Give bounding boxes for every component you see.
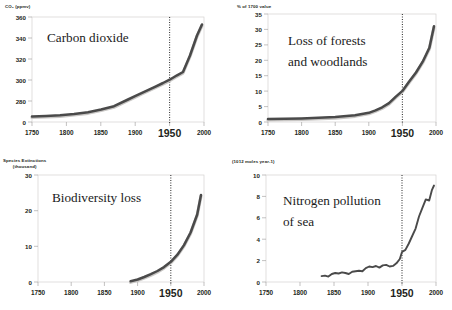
panel-biodiversity-loss: Species Extinctions (thousand) 30 20 10 …	[0, 155, 226, 310]
y-tick-label: 8	[257, 193, 261, 200]
panel-title: Biodiversity loss	[52, 190, 141, 205]
y-tick-label: 0	[257, 279, 261, 286]
x-tick-label: 1750	[261, 129, 276, 136]
y-tick-label: 35	[255, 11, 262, 18]
x-tick-label: 2000	[197, 289, 212, 296]
panel-nitrogen-pollution: (1012 moles year-1) 10 8 6 4 2 0	[226, 155, 452, 310]
y-tick-label: 30	[255, 26, 262, 33]
y-tick-label: 360	[16, 14, 27, 21]
x-tick-marks	[266, 282, 436, 286]
x-tick-label-1950: 1950	[158, 127, 182, 139]
plot-area-nitrogen-pollution: 10 8 6 4 2 0 1750 1800 1850 1900 19	[226, 155, 452, 310]
x-tick-label: 1800	[293, 289, 308, 296]
plot-area-biodiversity-loss: 30 20 10 0 1750 1800 1850 1900 1950 2000	[0, 155, 226, 310]
x-tick-label: 1800	[59, 129, 74, 136]
x-tick-label: 1900	[128, 129, 143, 136]
y-tick-marks	[262, 175, 266, 282]
y-tick-label: 10	[25, 243, 32, 250]
y-tick-label: 280	[16, 98, 27, 105]
panel-title-line-1: Loss of forests	[288, 33, 366, 48]
y-tick-marks	[264, 14, 268, 122]
y-tick-label: 25	[255, 41, 262, 48]
x-tick-marks	[32, 122, 204, 126]
y-tick-label: 340	[16, 35, 27, 42]
x-tick-label: 1800	[294, 129, 309, 136]
x-tick-label: 1750	[25, 129, 40, 136]
y-tick-label: 10	[253, 172, 260, 179]
x-tick-label: 1800	[64, 289, 79, 296]
y-tick-label: 0	[29, 279, 33, 286]
y-tick-label: 15	[255, 72, 262, 79]
x-tick-label: 1850	[94, 129, 109, 136]
y-tick-label: 300	[16, 77, 27, 84]
y-tick-label: 2	[257, 257, 261, 264]
x-tick-label: 1900	[361, 289, 376, 296]
y-tick-label: 20	[255, 57, 262, 64]
panel-title-line-2: and woodlands	[288, 54, 367, 69]
x-tick-label: 1750	[259, 289, 274, 296]
x-tick-label: 2000	[197, 129, 212, 136]
y-tick-label: 0	[23, 119, 27, 126]
y-tick-marks	[34, 175, 38, 282]
four-panel-figure: CO₂ (ppmv) 360 340 320 300 280 0	[0, 0, 452, 310]
panel-title-line-1: Nitrogen pollution	[283, 193, 381, 208]
panel-loss-of-forests: % of 1700 value 35 30 25 20 15	[226, 0, 452, 155]
x-tick-label: 1900	[362, 129, 377, 136]
x-tick-label-1950: 1950	[391, 127, 415, 139]
plot-area-carbon-dioxide: 360 340 320 300 280 0 1750 1800 1850 190…	[0, 0, 226, 155]
x-tick-marks	[268, 122, 436, 126]
x-tick-label: 1850	[97, 289, 112, 296]
y-tick-label: 0	[259, 119, 263, 126]
y-tick-label: 10	[255, 88, 262, 95]
x-tick-label: 1900	[130, 289, 145, 296]
x-tick-label: 1750	[31, 289, 46, 296]
y-tick-label: 320	[16, 56, 27, 63]
x-tick-label-1950: 1950	[159, 287, 183, 299]
y-tick-label: 5	[259, 103, 263, 110]
x-tick-label: 2000	[429, 129, 444, 136]
y-tick-label: 20	[25, 207, 32, 214]
y-tick-label: 6	[257, 214, 261, 221]
x-tick-label: 2000	[429, 289, 444, 296]
panel-title: Carbon dioxide	[47, 30, 129, 45]
y-tick-label: 30	[25, 172, 32, 179]
panel-title-line-2: of sea	[283, 214, 314, 229]
panel-carbon-dioxide: CO₂ (ppmv) 360 340 320 300 280 0	[0, 0, 226, 155]
x-tick-label: 1850	[327, 289, 342, 296]
x-tick-marks	[38, 282, 204, 286]
plot-area-loss-of-forests: 35 30 25 20 15 10 5 0 1750 1800 185	[226, 0, 452, 155]
y-tick-marks	[28, 17, 32, 122]
x-tick-label-1950: 1950	[390, 287, 414, 299]
x-tick-label: 1850	[328, 129, 343, 136]
y-tick-label: 4	[257, 236, 261, 243]
